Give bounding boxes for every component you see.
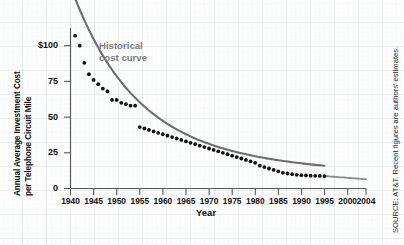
data-point: [179, 138, 183, 142]
data-point: [82, 61, 86, 65]
data-point: [115, 98, 119, 102]
data-point: [193, 142, 197, 146]
data-point: [221, 151, 225, 155]
y-tick-label-75: 75: [24, 76, 58, 86]
data-point: [313, 174, 317, 178]
data-point: [161, 132, 165, 136]
data-point: [133, 104, 137, 108]
data-point: [230, 154, 234, 158]
y-tick-label-25: 25: [24, 147, 58, 157]
data-point: [258, 164, 262, 168]
data-point: [244, 158, 248, 162]
data-point: [96, 82, 100, 86]
data-point: [249, 159, 253, 163]
data-point: [299, 173, 303, 177]
data-point: [152, 129, 156, 133]
x-axis-title: Year: [196, 207, 216, 218]
data-point: [239, 157, 243, 161]
data-point: [207, 147, 211, 151]
data-point: [323, 174, 327, 178]
data-point: [129, 104, 133, 108]
data-point: [138, 125, 142, 129]
data-point: [203, 145, 207, 149]
data-point: [175, 137, 179, 141]
data-point: [156, 131, 160, 135]
data-point: [272, 168, 276, 172]
data-point: [286, 172, 290, 176]
data-point: [106, 90, 110, 94]
data-point: [295, 173, 299, 177]
data-point: [142, 127, 146, 131]
data-point: [263, 165, 267, 169]
y-axis-title-line-1: Annual Average Investment Cost: [13, 71, 22, 196]
annotation-line-1: Historical: [99, 40, 147, 52]
data-point: [119, 101, 123, 105]
data-point: [216, 149, 220, 153]
source-note: SOURCE: AT&T. Recent figures are authors…: [391, 47, 400, 233]
data-point: [267, 167, 271, 171]
annotation-line-2: cost curve: [99, 52, 147, 64]
data-point: [170, 135, 174, 139]
data-point: [166, 134, 170, 138]
data-point: [124, 102, 128, 106]
data-point: [226, 152, 230, 156]
y-tick-label-0: 0: [24, 183, 58, 193]
data-point: [212, 148, 216, 152]
data-point: [235, 155, 239, 159]
data-point: [276, 169, 280, 173]
data-point: [87, 72, 91, 76]
data-point: [110, 98, 114, 102]
data-point: [147, 128, 151, 132]
data-point: [92, 78, 96, 82]
data-point: [318, 174, 322, 178]
y-tick-label-50: 50: [24, 112, 58, 122]
x-tick-label-2004: 2004: [351, 196, 381, 206]
x-tick-marks: [71, 189, 367, 196]
data-point: [281, 171, 285, 175]
y-tick-label-100: $100: [24, 40, 58, 50]
projected-curve-extension: [324, 176, 366, 179]
data-point: [73, 34, 77, 38]
data-point: [184, 139, 188, 143]
data-point: [304, 174, 308, 178]
data-point: [290, 172, 294, 176]
data-point: [309, 174, 313, 178]
y-tick-marks: [64, 46, 71, 189]
historical-cost-curve: [75, 0, 324, 166]
data-point: [101, 87, 105, 91]
data-point: [198, 144, 202, 148]
historical-cost-curve-annotation: Historical cost curve: [99, 40, 147, 64]
data-point: [189, 141, 193, 145]
data-point: [253, 161, 257, 165]
data-point: [78, 44, 82, 48]
